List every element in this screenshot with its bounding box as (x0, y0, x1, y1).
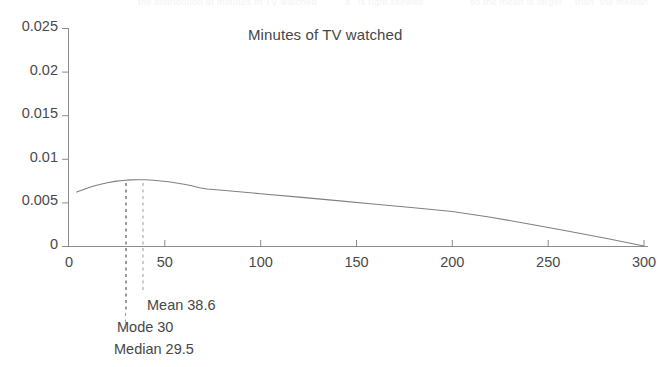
x-tick-label-50: 50 (135, 254, 195, 270)
x-axis-ticks (165, 240, 644, 247)
y-tick-label-0: 0 (2, 236, 58, 252)
x-tick-label-250: 250 (518, 254, 578, 270)
annotation-label-mean: Mean 38.6 (147, 297, 216, 313)
x-tick-label-100: 100 (231, 254, 291, 270)
y-tick-label-0.015: 0.015 (2, 105, 58, 121)
x-tick-label-0: 0 (39, 254, 99, 270)
x-tick-label-300: 300 (614, 254, 668, 270)
density-curve (77, 180, 644, 246)
cropped-text-remnant: the distribution of minutes of TV watche… (0, 0, 668, 7)
y-tick-label-0.02: 0.02 (2, 62, 58, 78)
y-tick-label-0.01: 0.01 (2, 149, 58, 165)
y-axis-ticks (62, 29, 69, 203)
annotation-label-median: Median 29.5 (114, 341, 194, 357)
x-tick-label-150: 150 (327, 254, 387, 270)
y-tick-label-0.005: 0.005 (2, 192, 58, 208)
y-tick-label-0.025: 0.025 (2, 18, 58, 34)
x-tick-label-200: 200 (422, 254, 482, 270)
plot-canvas (0, 0, 668, 367)
chart-figure: the distribution of minutes of TV watche… (0, 0, 668, 367)
annotation-label-mode: Mode 30 (117, 319, 173, 335)
chart-title: Minutes of TV watched (248, 26, 402, 43)
